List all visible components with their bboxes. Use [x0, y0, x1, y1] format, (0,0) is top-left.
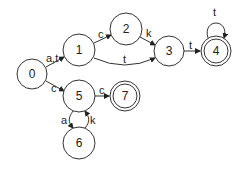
- label-5-7: c: [99, 84, 105, 96]
- state-6-label: 6: [76, 136, 83, 150]
- edge-5-6: [69, 111, 73, 128]
- state-2: 2: [110, 13, 142, 45]
- state-1: 1: [63, 34, 95, 66]
- state-2-label: 2: [123, 22, 130, 36]
- label-2-3: k: [146, 27, 152, 39]
- state-3: 3: [154, 36, 184, 66]
- edge-6-5: [85, 111, 89, 128]
- label-1-3: t: [123, 53, 126, 65]
- label-3-4: t: [189, 39, 192, 51]
- state-0-label: 0: [29, 67, 36, 81]
- state-7-accepting: 7: [110, 81, 140, 111]
- state-4-label: 4: [213, 44, 220, 58]
- label-0-5: c: [51, 82, 57, 94]
- state-6: 6: [63, 127, 95, 159]
- state-7-label: 7: [122, 89, 129, 103]
- state-5: 5: [63, 80, 95, 112]
- label-4-4: t: [213, 6, 216, 18]
- label-6-5: k: [90, 114, 96, 126]
- state-4-accepting: 4: [201, 36, 231, 66]
- automaton-diagram: a,t c c k t t t c a k 0 1 2 3 4 5 6: [0, 0, 242, 170]
- label-5-6: a: [61, 114, 68, 126]
- state-5-label: 5: [76, 89, 83, 103]
- state-3-label: 3: [166, 44, 173, 58]
- label-0-1: a,t: [46, 52, 58, 64]
- label-1-2: c: [98, 28, 104, 40]
- state-1-label: 1: [76, 43, 83, 57]
- state-0: 0: [17, 59, 47, 89]
